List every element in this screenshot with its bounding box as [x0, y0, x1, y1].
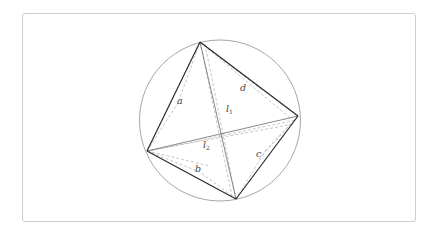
- diagonals: [147, 42, 298, 199]
- label-l1: l1: [226, 103, 233, 115]
- cyclic-quadrilateral-diagram: a b c d l1 l2: [0, 0, 441, 237]
- label-l2: l2: [203, 139, 210, 151]
- dashed-auxiliary-lines: [147, 42, 298, 199]
- label-a: a: [177, 95, 183, 106]
- label-d: d: [240, 82, 246, 93]
- side-a: [147, 42, 200, 151]
- label-b: b: [195, 163, 201, 174]
- quadrilateral-sides: [147, 42, 298, 199]
- label-c: c: [256, 148, 262, 159]
